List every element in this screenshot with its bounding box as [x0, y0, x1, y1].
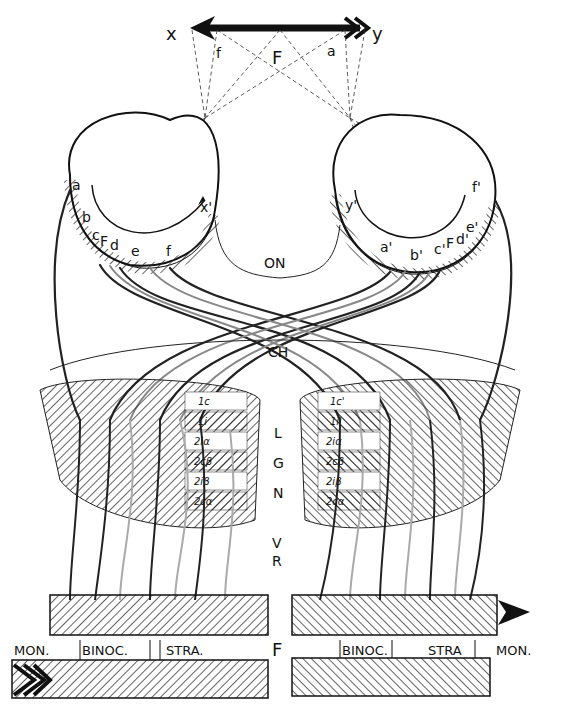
label-left-binoc: BINOC. [82, 643, 128, 658]
label-right-binoc: BINOC. [342, 643, 388, 658]
svg-text:2iβ: 2iβ [194, 476, 210, 487]
left-retina-x-prime: x' [200, 199, 212, 215]
left-retina-a: a [72, 177, 81, 193]
label-left-stra: STRA. [166, 643, 204, 658]
label-lgn-G: G [273, 455, 284, 471]
left-retina-c: c [92, 227, 100, 243]
label-field-a: a [327, 43, 336, 59]
label-radiation-R: R [272, 553, 282, 569]
label-y: y [372, 23, 383, 44]
label-field-f: f [216, 45, 222, 61]
diagram-canvas: x y f F a a b c F d e f x' [0, 0, 562, 715]
visual-field-arrow [190, 16, 368, 40]
svg-text:1c': 1c' [330, 396, 345, 407]
svg-text:2iβ: 2iβ [326, 476, 342, 487]
svg-text:2cβ: 2cβ [326, 456, 345, 467]
left-eye [69, 112, 219, 268]
label-radiation-V: V [272, 535, 282, 551]
cortex-right [292, 595, 530, 696]
label-right-mon: MON. [496, 643, 531, 658]
label-right-stra: STRA [428, 643, 462, 658]
label-left-mon: MON. [14, 643, 49, 658]
left-retina-d: d [110, 237, 119, 253]
label-field-F: F [272, 47, 282, 68]
label-chiasm: CH [268, 344, 288, 360]
left-retina-b: b [82, 209, 91, 225]
right-retina-y-prime: y' [345, 197, 357, 213]
label-lgn-L: L [274, 425, 282, 441]
visual-pathway-diagram: x y f F a a b c F d e f x' [0, 0, 562, 715]
lgn-left [40, 379, 260, 528]
left-retina-F: F [100, 233, 108, 249]
svg-text:1c: 1c [198, 396, 210, 407]
left-retina-e: e [131, 243, 140, 259]
label-x: x [166, 23, 177, 44]
label-lgn-N: N [273, 485, 283, 501]
right-retina-F: F [446, 235, 454, 251]
label-cortex-F: F [272, 639, 282, 660]
label-optic-nerve: ON [264, 255, 286, 271]
right-retina-a: a' [380, 239, 392, 255]
right-retina-f: f' [472, 179, 481, 195]
right-retina-c: c' [434, 241, 446, 257]
cortex-left [12, 595, 268, 698]
right-retina-e: e' [466, 219, 478, 235]
right-retina-b: b' [410, 247, 423, 263]
